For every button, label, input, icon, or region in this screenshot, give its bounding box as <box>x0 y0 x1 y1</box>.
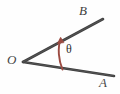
angle-diagram-figure: O B A θ <box>0 0 120 94</box>
angle-arc-path <box>59 40 63 70</box>
angle-label-theta: θ <box>66 43 72 55</box>
vertex-label-o: O <box>7 53 16 66</box>
ray-oa-group <box>23 62 114 76</box>
angle-arc-group <box>57 37 64 69</box>
ray-endpoint-label-a: A <box>99 76 107 89</box>
ray-oa-highlight <box>23 62 114 76</box>
ray-endpoint-label-b: B <box>79 4 87 17</box>
